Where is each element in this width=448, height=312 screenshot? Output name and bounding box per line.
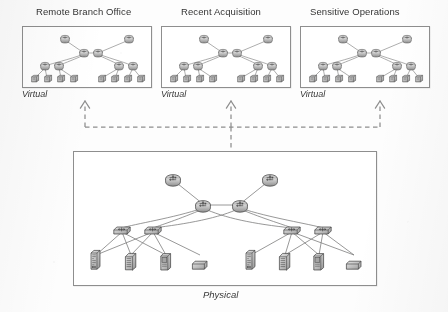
mapping-arrow-head-3 [375, 101, 384, 108]
virtual-panel-3[interactable] [300, 26, 430, 88]
physical-layer-label: Physical [203, 289, 238, 300]
virtual-topology-3 [301, 27, 429, 87]
figure-canvas: Remote Branch Office [0, 0, 448, 312]
virtual-layer-label-1: Virtual [22, 89, 47, 99]
virtual-panel-2[interactable] [161, 26, 291, 88]
virtual-panel-title-3: Sensitive Operations [310, 6, 400, 17]
physical-panel[interactable] [73, 151, 377, 286]
mapping-arrow-head-1 [80, 101, 89, 108]
virtual-panel-title-1: Remote Branch Office [36, 6, 131, 17]
virtual-layer-label-2: Virtual [161, 89, 186, 99]
physical-topology [74, 152, 376, 285]
virtual-layer-label-3: Virtual [300, 89, 325, 99]
virtual-panel-title-2: Recent Acquisition [181, 6, 261, 17]
virtual-topology-1 [23, 27, 151, 87]
virtual-panel-1[interactable] [22, 26, 152, 88]
mapping-arrow-head-2 [226, 101, 235, 108]
virtual-topology-2 [162, 27, 290, 87]
